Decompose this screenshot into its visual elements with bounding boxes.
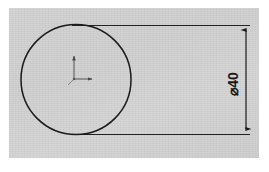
origin-point-icon (73, 78, 75, 80)
drawing-canvas (0, 0, 269, 172)
origin-triad-icon (68, 56, 92, 85)
technical-drawing-screenshot: ⌀40 (0, 0, 269, 172)
origin-z-axis-icon (68, 79, 74, 85)
